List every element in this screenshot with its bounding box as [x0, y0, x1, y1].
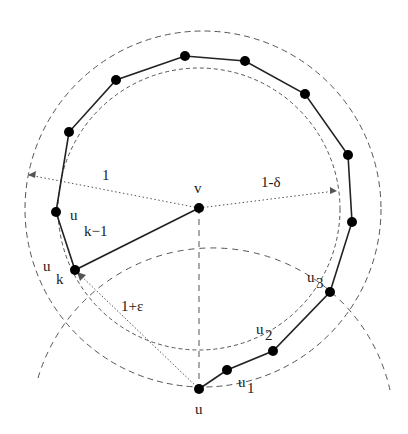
- node-u3: [325, 287, 335, 297]
- node-p5: [347, 217, 357, 227]
- label-v: v: [194, 181, 202, 196]
- radius-1-dotted: [29, 175, 199, 208]
- label-radius-1: 1: [102, 168, 110, 183]
- label-u: u: [195, 402, 203, 417]
- node-p7: [300, 89, 310, 99]
- node-uk: [70, 265, 80, 275]
- label-radius-1-eps: 1+ε: [121, 299, 143, 314]
- label-u1-sub: 1: [247, 381, 255, 396]
- label-u2-base: u: [256, 322, 264, 337]
- label-uk-sub: k: [56, 272, 64, 287]
- node-p11: [64, 127, 74, 137]
- node-p6: [343, 150, 353, 160]
- node-u: [194, 384, 204, 394]
- arrowhead-left-icon: [28, 171, 36, 178]
- node-p8: [240, 56, 250, 66]
- label-u3-sub: 3: [316, 276, 324, 291]
- radius-1-delta-dotted: [199, 191, 335, 208]
- node-u1: [222, 365, 232, 375]
- label-radius-1-delta: 1-δ: [261, 175, 281, 190]
- diagram-canvas: v u u 1 u 2 u 3 u k u k−1 1 1-δ 1+ε: [0, 0, 408, 434]
- node-uk-1: [51, 207, 61, 217]
- node-u2: [268, 346, 278, 356]
- label-ukm1-base: u: [70, 208, 78, 223]
- diagram-graphics: [0, 0, 408, 434]
- label-uk-base: u: [43, 259, 51, 274]
- label-u2-sub: 2: [265, 328, 273, 343]
- node-v: [194, 203, 204, 213]
- label-ukm1-sub: k−1: [84, 224, 107, 239]
- label-u1-base: u: [238, 375, 246, 390]
- node-p9: [180, 51, 190, 61]
- radius-1-eps-dotted: [78, 273, 199, 389]
- label-u3-base: u: [307, 270, 315, 285]
- arrowhead-right-icon: [330, 187, 337, 194]
- node-p10: [111, 75, 121, 85]
